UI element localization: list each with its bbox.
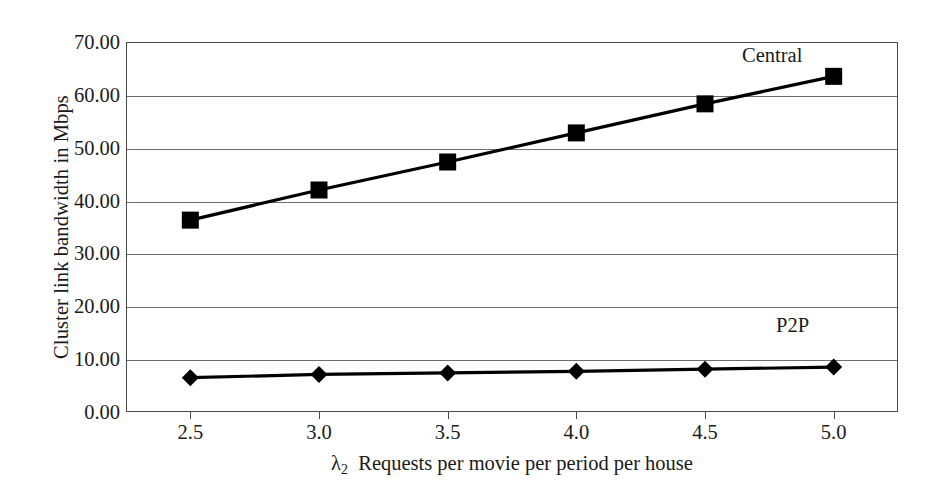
chart-figure: Cluster link bandwidth in Mbps 0.0010.00… [0,0,937,497]
x-axis-title-text: Requests per movie per period per house [358,452,693,474]
x-axis-tick-label: 4.0 [536,421,616,444]
lambda-symbol: λ [331,452,341,474]
x-axis-tick-mark [319,412,320,419]
x-axis-tick-mark [448,412,449,419]
x-axis-tick-label: 3.5 [408,421,488,444]
gridline [127,307,897,308]
x-axis-tick-label: 3.0 [279,421,359,444]
x-axis-tick-mark [834,412,835,419]
lambda-subscript: 2 [341,462,348,477]
gridline [127,254,897,255]
y-axis-tick-label: 60.00 [42,85,120,106]
y-axis-tick-label: 70.00 [42,32,120,53]
x-axis-tick-mark [190,412,191,419]
gridline [127,202,897,203]
series-label-p2p: P2P [776,315,809,336]
y-axis-tick-label: 0.00 [42,402,120,423]
x-axis-title: λ2 Requests per movie per period per hou… [126,452,898,478]
gridline [127,149,897,150]
y-axis-tick-label: 50.00 [42,137,120,158]
x-axis-tick-label: 4.5 [665,421,745,444]
y-axis-tick-label: 20.00 [42,296,120,317]
y-axis-tick-labels: 0.0010.0020.0030.0040.0050.0060.0070.00 [40,0,120,497]
y-axis-tick-label: 30.00 [42,243,120,264]
x-axis-tick-mark [705,412,706,419]
series-label-central: Central [742,45,802,66]
y-axis-tick-label: 40.00 [42,190,120,211]
x-axis-tick-mark [576,412,577,419]
gridline [127,96,897,97]
y-axis-tick-label: 10.00 [42,349,120,370]
x-axis-tick-label: 5.0 [794,421,874,444]
gridline [127,360,897,361]
plot-area [126,42,898,412]
x-axis-tick-label: 2.5 [150,421,230,444]
